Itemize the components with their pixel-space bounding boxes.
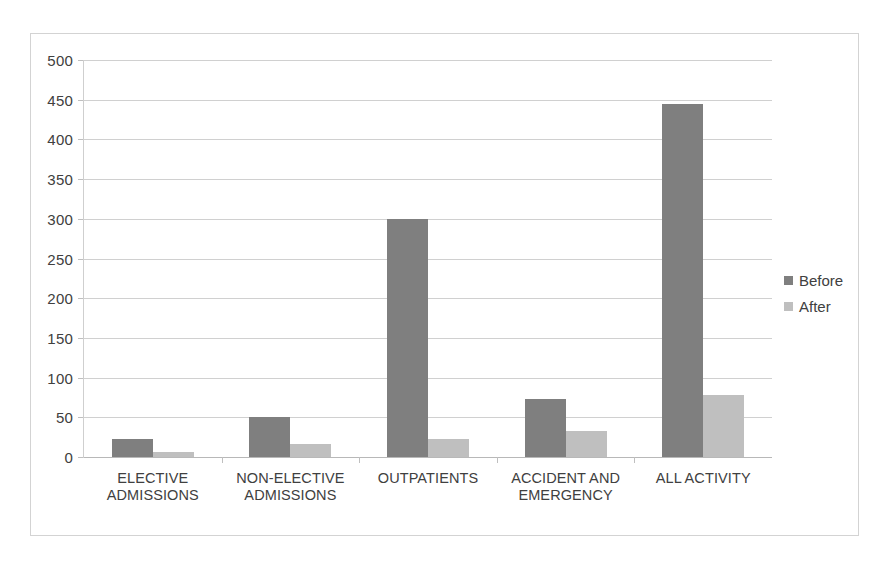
x-label-line: ADMISSIONS	[84, 487, 222, 504]
x-label-elective-admissions: ELECTIVEADMISSIONS	[84, 470, 222, 504]
x-label-non-elective-admissions: NON-ELECTIVEADMISSIONS	[222, 470, 360, 504]
x-label-line: ACCIDENT AND	[497, 470, 635, 487]
x-tick-mark-2	[359, 457, 360, 463]
gridline-0	[84, 457, 772, 458]
legend-swatch-icon	[784, 276, 793, 285]
bar-before-elective-admissions	[112, 439, 153, 457]
y-tick-label-100: 100	[47, 371, 73, 386]
x-label-line: EMERGENCY	[497, 487, 635, 504]
x-label-outpatients: OUTPATIENTS	[359, 470, 497, 487]
x-label-line: ELECTIVE	[84, 470, 222, 487]
legend-item-before[interactable]: Before	[784, 267, 843, 293]
bar-before-accident-and-emergency	[525, 399, 566, 457]
chart-container: 500450400350300250200150100500 ELECTIVEA…	[30, 33, 859, 536]
bar-after-non-elective-admissions	[290, 444, 331, 457]
y-tick-label-300: 300	[47, 212, 73, 227]
y-tick-label-200: 200	[47, 291, 73, 306]
bar-after-elective-admissions	[153, 452, 194, 457]
plot-area	[84, 60, 772, 457]
y-tick-label-150: 150	[47, 331, 73, 346]
x-label-all-activity: ALL ACTIVITY	[634, 470, 772, 487]
legend-item-after[interactable]: After	[784, 293, 843, 319]
legend-swatch-icon	[784, 302, 793, 311]
gridline-450	[84, 100, 772, 101]
bar-after-accident-and-emergency	[566, 431, 607, 457]
gridline-500	[84, 60, 772, 61]
y-tick-label-50: 50	[56, 410, 73, 425]
y-tick-label-0: 0	[64, 450, 73, 465]
x-tick-mark-1	[222, 457, 223, 463]
y-tick-label-250: 250	[47, 252, 73, 267]
y-tick-label-350: 350	[47, 172, 73, 187]
bar-before-all-activity	[662, 104, 703, 457]
x-label-line: ADMISSIONS	[222, 487, 360, 504]
bar-before-non-elective-admissions	[249, 417, 290, 457]
y-tick-label-400: 400	[47, 132, 73, 147]
x-label-accident-and-emergency: ACCIDENT ANDEMERGENCY	[497, 470, 635, 504]
bar-after-all-activity	[703, 395, 744, 457]
x-tick-mark-3	[497, 457, 498, 463]
y-tick-label-500: 500	[47, 53, 73, 68]
bar-before-outpatients	[387, 219, 428, 457]
legend-label: After	[799, 299, 831, 314]
x-label-line: NON-ELECTIVE	[222, 470, 360, 487]
y-axis-tick-labels: 500450400350300250200150100500	[31, 34, 73, 535]
chart-legend: BeforeAfter	[784, 267, 843, 319]
y-tick-label-450: 450	[47, 93, 73, 108]
x-label-line: OUTPATIENTS	[359, 470, 497, 487]
legend-label: Before	[799, 273, 843, 288]
x-label-line: ALL ACTIVITY	[634, 470, 772, 487]
bar-after-outpatients	[428, 439, 469, 457]
x-tick-mark-4	[634, 457, 635, 463]
